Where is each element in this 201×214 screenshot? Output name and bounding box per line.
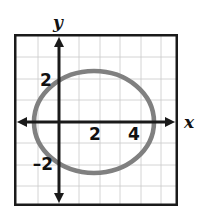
ellipse-graph-figure: y x 2 –2 2 4 [0,0,201,214]
coordinate-plane-svg: y x 2 –2 2 4 [0,0,201,214]
x-tick-label-2: 2 [89,124,101,144]
x-axis-label: x [183,112,195,132]
y-tick-label-2: 2 [40,70,52,90]
y-axis-label: y [52,12,64,32]
y-tick-label-minus-2: –2 [33,154,53,174]
x-tick-label-4: 4 [128,124,140,144]
